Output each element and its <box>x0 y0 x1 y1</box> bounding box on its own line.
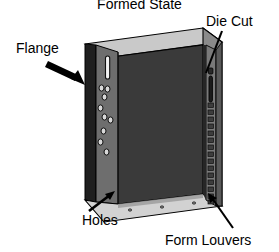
louver-slot <box>208 173 213 177</box>
flange-slot <box>106 56 110 79</box>
die-cut-notch <box>209 68 213 74</box>
bottom-hole <box>128 209 131 211</box>
formed-state-illustration <box>0 0 279 252</box>
callout-label-die-cut: Die Cut <box>206 14 253 28</box>
louver-slot <box>208 131 213 135</box>
front-face <box>104 45 203 207</box>
figure-canvas: Formed State <box>0 0 279 252</box>
louver-slot <box>208 110 213 114</box>
louver-slot <box>208 117 213 121</box>
louver-slot <box>208 187 213 191</box>
louver-slot <box>208 159 213 163</box>
louver-group <box>208 103 213 204</box>
right-outer-edge <box>216 42 222 206</box>
figure-title: Formed State <box>0 0 279 11</box>
die-cut-slot <box>209 76 212 102</box>
right-fold-shadow <box>203 45 206 200</box>
callout-label-flange: Flange <box>16 41 59 55</box>
bottom-hole <box>160 206 163 208</box>
louver-slot <box>208 166 213 170</box>
louver-slot <box>208 103 213 107</box>
die-cut-feature <box>209 68 213 102</box>
flange-callout-arrow <box>45 61 85 85</box>
callout-label-holes: Holes <box>82 213 118 227</box>
louver-slot <box>208 124 213 128</box>
louver-slot <box>208 152 213 156</box>
bottom-hole <box>192 202 195 204</box>
louver-slot <box>208 180 213 184</box>
callout-label-form-louvers: Form Louvers <box>165 233 251 247</box>
louver-slot <box>208 145 213 149</box>
louver-slot <box>208 138 213 142</box>
left-edge-band <box>85 44 96 202</box>
